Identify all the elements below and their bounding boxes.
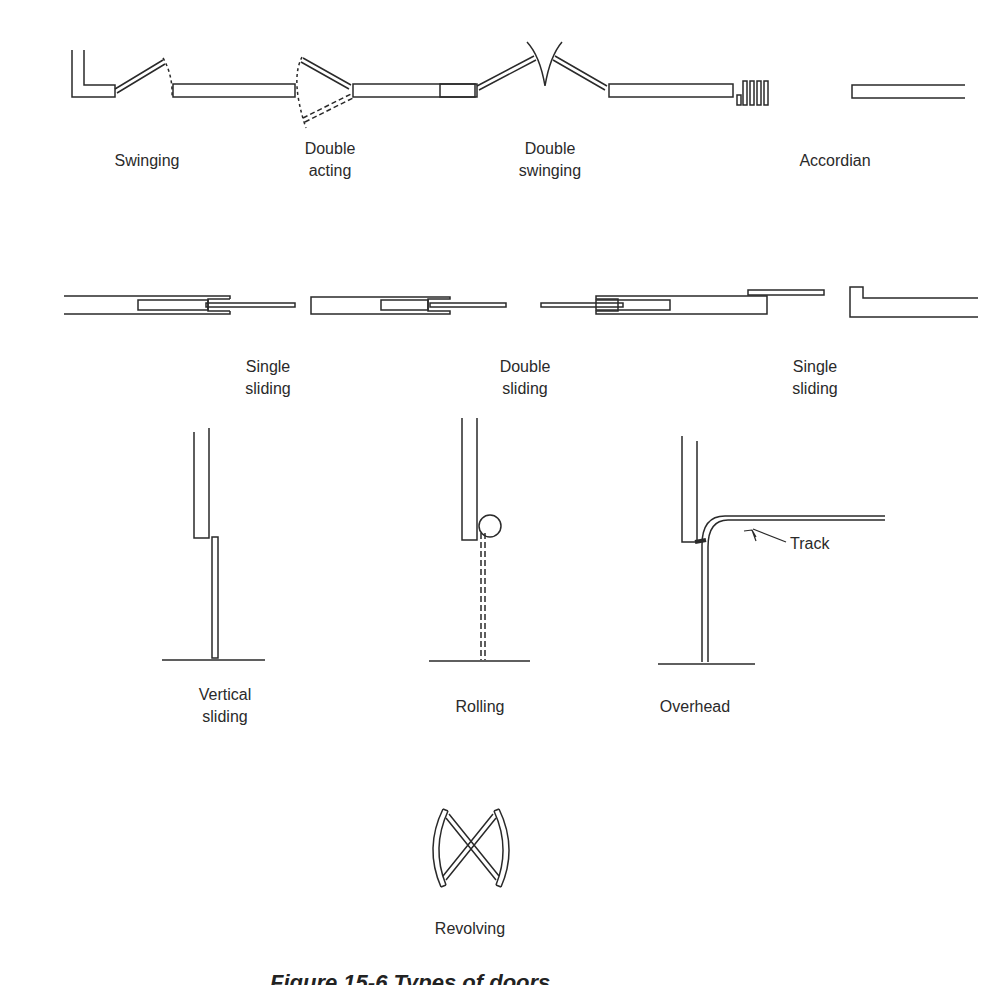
single-sliding-door-symbol-right <box>850 287 978 317</box>
revolving-door-symbol <box>433 809 509 887</box>
label-track: Track <box>790 533 850 555</box>
label-line: Double <box>500 138 600 160</box>
label-line: Single <box>218 356 318 378</box>
label-line: Rolling <box>430 696 530 718</box>
label-overhead: Overhead <box>640 696 750 718</box>
label-line: Single <box>765 356 865 378</box>
label-accordian: Accordian <box>775 150 895 172</box>
double-acting-door-symbol <box>297 57 475 128</box>
accordian-door-symbol <box>737 81 965 105</box>
door-types-diagram <box>0 0 996 985</box>
label-line: Double <box>475 356 575 378</box>
double-swinging-door-symbol <box>440 42 733 97</box>
single-sliding-door-symbol-left <box>64 296 295 314</box>
label-single-sliding-right: Single sliding <box>765 356 865 400</box>
label-double-swinging: Double swinging <box>500 138 600 182</box>
label-revolving: Revolving <box>420 918 520 940</box>
label-vertical-sliding: Vertical sliding <box>175 684 275 728</box>
label-double-sliding: Double sliding <box>475 356 575 400</box>
vertical-sliding-door-symbol <box>162 428 265 660</box>
label-line: Revolving <box>420 918 520 940</box>
label-line: sliding <box>218 378 318 400</box>
swinging-door-symbol <box>72 50 295 97</box>
label-line: Swinging <box>97 150 197 172</box>
label-line: sliding <box>175 706 275 728</box>
label-line: Double <box>285 138 375 160</box>
label-single-sliding-left: Single sliding <box>218 356 318 400</box>
label-line: Vertical <box>175 684 275 706</box>
label-rolling: Rolling <box>430 696 530 718</box>
label-line: sliding <box>475 378 575 400</box>
label-line: Accordian <box>775 150 895 172</box>
label-swinging: Swinging <box>97 150 197 172</box>
label-line: Overhead <box>640 696 750 718</box>
rolling-door-symbol <box>429 418 530 661</box>
overhead-door-symbol <box>658 436 885 664</box>
label-line: swinging <box>500 160 600 182</box>
figure-caption: Figure 15-6 Types of doors <box>270 970 550 985</box>
label-line: sliding <box>765 378 865 400</box>
double-sliding-door-symbol <box>311 290 824 314</box>
label-line: acting <box>285 160 375 182</box>
label-double-acting: Double acting <box>285 138 375 182</box>
